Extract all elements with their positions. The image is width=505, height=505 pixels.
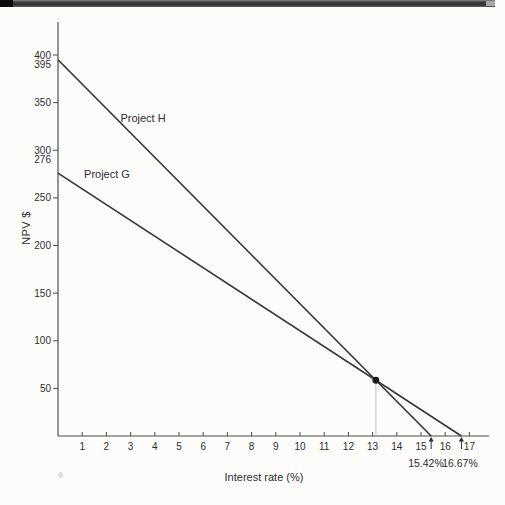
x-axis-tick-label: 4 (152, 441, 158, 452)
x-axis-tick-label: 11 (319, 441, 330, 452)
chart-canvas: 5010015020025030035040039527612345678910… (0, 0, 505, 505)
irr-arrow-head-g (459, 437, 464, 442)
x-axis-tick-label: 9 (273, 441, 279, 452)
x-axis-tick-label: 15 (415, 441, 427, 452)
x-axis-tick-label: 3 (128, 441, 134, 452)
scanned-page: 5010015020025030035040039527612345678910… (0, 0, 505, 505)
y-axis-title: NPV $ (20, 178, 32, 278)
y-axis-tick-label: 100 (34, 335, 51, 346)
y-axis-intercept-label: 395 (34, 59, 51, 70)
x-axis-tick-label: 2 (104, 441, 110, 452)
x-axis-tick-label: 8 (249, 441, 255, 452)
project-g-line-label: Project G (67, 168, 147, 180)
y-axis-tick-label: 350 (34, 97, 51, 108)
x-axis-tick-label: 17 (464, 441, 476, 452)
x-axis-tick-label: 16 (440, 441, 452, 452)
y-axis-intercept-label: 276 (34, 154, 51, 165)
x-axis-tick-label: 12 (343, 441, 355, 452)
y-axis-tick-label: 50 (40, 383, 52, 394)
npv-profile-chart: 5010015020025030035040039527612345678910… (0, 0, 505, 505)
irr-project-g-label: 16.67% (438, 457, 482, 469)
x-axis-tick-label: 14 (391, 441, 403, 452)
x-axis-title: Interest rate (%) (164, 471, 364, 483)
x-axis-tick-label: 13 (367, 441, 379, 452)
npv-profile-line-g (58, 173, 461, 436)
x-axis-tick-label: 6 (200, 441, 206, 452)
crossover-dot (372, 377, 379, 384)
scan-artifact (58, 472, 63, 478)
y-axis-tick-label: 150 (34, 288, 51, 299)
y-axis-tick-label: 200 (34, 240, 51, 251)
y-axis-tick-label: 250 (34, 192, 51, 203)
x-axis-tick-label: 7 (225, 441, 231, 452)
x-axis-tick-label: 1 (79, 441, 85, 452)
irr-arrow-head-h (429, 437, 434, 442)
x-axis-tick-label: 10 (294, 441, 306, 452)
project-h-line-label: Project H (103, 112, 183, 124)
x-axis-tick-label: 5 (176, 441, 182, 452)
